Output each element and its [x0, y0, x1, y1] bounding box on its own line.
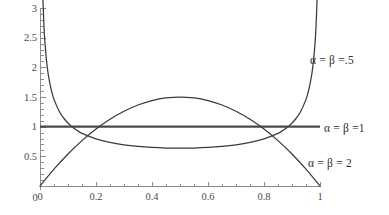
y-axis-tick-labels: 00.511.522.53	[24, 3, 38, 203]
axes-group	[40, 8, 320, 190]
series-label-alpha-beta-half: α = β =.5	[310, 54, 354, 66]
series-label-alpha-beta-one: α = β =1	[324, 122, 365, 134]
series-label-alpha-beta-two: α = β = 2	[308, 157, 352, 169]
y-tick-label: 1.5	[24, 92, 37, 103]
data-curves-group	[40, 0, 320, 186]
curve-series-2	[40, 97, 320, 186]
x-tick-label: 0.2	[89, 191, 102, 202]
x-tick-label: 0	[37, 191, 42, 202]
y-tick-label: 0	[32, 192, 37, 203]
y-tick-label: 2.5	[24, 32, 37, 43]
x-tick-label: 0.8	[257, 191, 270, 202]
x-tick-label: 1	[317, 191, 322, 202]
x-axis-tick-labels: 00.20.40.60.81	[37, 191, 322, 202]
y-tick-label: 3	[32, 3, 37, 14]
beta-density-plot: 00.20.40.60.81 00.511.522.53	[0, 0, 389, 215]
y-tick-label: 2	[32, 62, 37, 73]
x-tick-label: 0.4	[145, 191, 159, 202]
y-tick-label: 1	[32, 121, 37, 132]
y-tick-label: 0.5	[24, 151, 37, 162]
x-tick-label: 0.6	[201, 191, 214, 202]
chart-figure: 00.20.40.60.81 00.511.522.53 α = β =.5 α…	[0, 0, 389, 215]
